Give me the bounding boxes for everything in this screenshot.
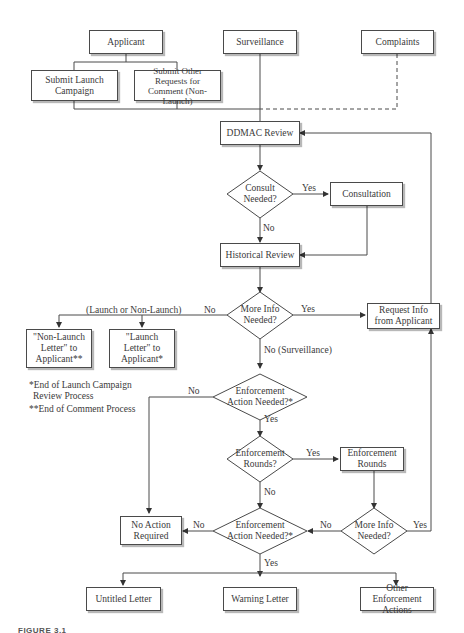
more-info-2-label: More Info Needed? <box>349 519 399 543</box>
submit-other-box: Submit Other Requests for Comment (Non-L… <box>134 70 221 101</box>
consult-no-label: No <box>263 223 275 234</box>
rounds-no-label: No <box>264 487 276 498</box>
footnote-comment: **End of Comment Process <box>29 404 135 415</box>
enforcement-1-yes-label: Yes <box>264 414 278 425</box>
submit-launch-box: Submit Launch Campaign <box>31 70 118 101</box>
no-surveillance-label: No (Surveillance) <box>264 345 332 356</box>
footnote-launch-line1: *End of Launch Campaign <box>29 380 132 391</box>
enforcement-1-no-label: No <box>188 386 200 397</box>
footnote-launch-line2: Review Process <box>33 391 93 402</box>
enforcement-needed-1-label: Enforcement Action Needed?* <box>225 385 295 409</box>
applicant-box: Applicant <box>89 30 163 54</box>
enforcement-2-yes-label: Yes <box>264 558 278 569</box>
enforcement-2-no-label: No <box>193 520 205 531</box>
more-info-2-yes-label: Yes <box>413 520 427 531</box>
launch-or-non-label: (Launch or Non-Launch) <box>86 305 182 316</box>
no-action-required-box: No Action Required <box>120 516 182 545</box>
surveillance-box: Surveillance <box>223 30 297 54</box>
enforcement-needed-2-label: Enforcement Action Needed?* <box>222 519 298 543</box>
launch-letter-box: "Launch Letter" to Applicant* <box>109 329 175 368</box>
more-info-1-label: More Info Needed? <box>235 303 285 327</box>
warning-letter-box: Warning Letter <box>223 587 297 611</box>
more-info-1-yes-label: Yes <box>301 304 315 315</box>
non-launch-letter-box: "Non-Launch Letter" to Applicant** <box>26 329 92 368</box>
consult-yes-label: Yes <box>302 183 316 194</box>
enforcement-rounds-q-label: Enforcement Rounds? <box>230 447 290 471</box>
more-info-1-no-label: No <box>204 305 216 316</box>
complaints-box: Complaints <box>361 30 434 54</box>
figure-caption: FIGURE 3.1 <box>18 626 67 633</box>
consult-needed-label: Consult Needed? <box>235 182 285 206</box>
request-info-box: Request Info from Applicant <box>367 303 440 329</box>
more-info-2-no-label: No <box>320 520 332 531</box>
other-enforcement-box: Other Enforcement Actions <box>360 587 434 611</box>
consultation-box: Consultation <box>330 182 403 206</box>
ddmac-review-box: DDMAC Review <box>220 121 300 145</box>
rounds-yes-label: Yes <box>306 448 320 459</box>
enforcement-rounds-box: Enforcement Rounds <box>340 447 404 471</box>
historical-review-box: Historical Review <box>220 243 300 267</box>
untitled-letter-box: Untitled Letter <box>86 587 161 611</box>
